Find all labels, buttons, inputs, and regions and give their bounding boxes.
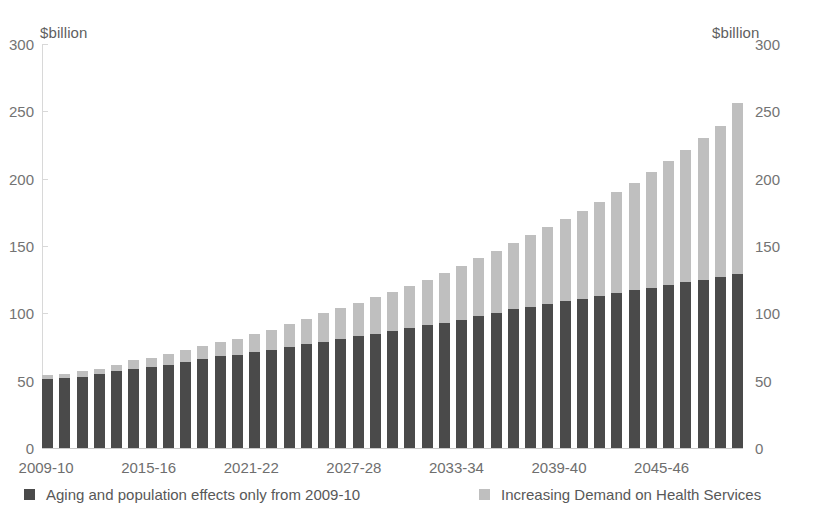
- x-axis-tick-label: 2021-22: [224, 460, 279, 475]
- bar-segment-aging: [680, 282, 691, 448]
- bar: [249, 334, 260, 448]
- bar: [215, 342, 226, 448]
- bar: [560, 219, 571, 448]
- bar-segment-aging: [301, 344, 312, 448]
- bar-segment-aging: [284, 347, 295, 448]
- bar: [680, 150, 691, 448]
- bar-segment-demand: [611, 192, 622, 293]
- y-axis-right-tick-label: 200: [755, 172, 795, 187]
- bar: [439, 273, 450, 448]
- y-axis-left-tick-label: 300: [0, 37, 34, 52]
- bar-segment-aging: [111, 371, 122, 448]
- bar-segment-aging: [249, 352, 260, 448]
- bar-segment-aging: [266, 350, 277, 448]
- bar-segment-aging: [163, 365, 174, 448]
- bar: [77, 371, 88, 448]
- bar-segment-demand: [629, 183, 640, 291]
- chart-legend: Aging and population effects only from 2…: [0, 486, 823, 508]
- x-axis-tick-label: 2039-40: [531, 460, 586, 475]
- bar-segment-demand: [663, 161, 674, 285]
- y-axis-right-tick-label: 100: [755, 306, 795, 321]
- bar: [94, 369, 105, 448]
- bar-segment-demand: [301, 319, 312, 345]
- bar: [284, 324, 295, 448]
- bar: [387, 292, 398, 448]
- bar: [542, 227, 553, 448]
- bar: [301, 319, 312, 448]
- bar-segment-demand: [249, 334, 260, 353]
- bar: [422, 280, 433, 448]
- bar-segment-aging: [146, 367, 157, 448]
- bar-segment-aging: [577, 299, 588, 448]
- bar-segment-demand: [146, 358, 157, 367]
- bar-segment-demand: [197, 346, 208, 359]
- bar-series-container: [42, 44, 743, 448]
- bar: [594, 202, 605, 448]
- bar: [715, 126, 726, 448]
- y-axis-right-tick-label: 50: [755, 374, 795, 389]
- bar-segment-aging: [542, 304, 553, 448]
- bar: [335, 308, 346, 448]
- bar-segment-aging: [335, 339, 346, 448]
- bar: [663, 161, 674, 448]
- bar-segment-aging: [663, 285, 674, 448]
- bar: [473, 258, 484, 448]
- bar: [611, 192, 622, 448]
- bar-segment-demand: [577, 211, 588, 299]
- y-axis-right-tick-label: 150: [755, 239, 795, 254]
- y-axis-left-tick-label: 150: [0, 239, 34, 254]
- bar-segment-aging: [525, 307, 536, 448]
- y-axis-right-tick-label: 0: [755, 441, 795, 456]
- bar-segment-aging: [353, 336, 364, 448]
- bar-segment-aging: [318, 342, 329, 448]
- y-axis-left-tick-label: 100: [0, 306, 34, 321]
- bar-segment-demand: [698, 138, 709, 279]
- bar-segment-demand: [473, 258, 484, 316]
- bar-segment-aging: [422, 325, 433, 448]
- bar-segment-demand: [422, 280, 433, 326]
- bar-segment-demand: [370, 297, 381, 333]
- bar: [577, 211, 588, 448]
- legend-label-demand: Increasing Demand on Health Services: [501, 486, 761, 503]
- bar-segment-aging: [404, 328, 415, 448]
- bar-segment-demand: [732, 103, 743, 274]
- bar: [646, 172, 657, 448]
- bar-segment-aging: [611, 293, 622, 448]
- bar-segment-aging: [232, 355, 243, 448]
- bar: [525, 235, 536, 448]
- stacked-bar-chart: $billion $billion 050100150200250300 050…: [0, 0, 823, 513]
- bar: [491, 251, 502, 448]
- bar-segment-aging: [94, 374, 105, 448]
- bar: [629, 183, 640, 448]
- bar-segment-demand: [111, 365, 122, 372]
- bar-segment-aging: [456, 320, 467, 448]
- bar-segment-demand: [387, 292, 398, 331]
- bar-segment-demand: [232, 339, 243, 355]
- bar-segment-demand: [353, 303, 364, 337]
- x-axis-tick-label: 2045-46: [634, 460, 689, 475]
- x-axis-tick-label: 2015-16: [121, 460, 176, 475]
- x-axis-tick-label: 2027-28: [326, 460, 381, 475]
- bar-segment-demand: [542, 227, 553, 304]
- bar: [42, 375, 53, 448]
- bar-segment-aging: [387, 331, 398, 448]
- bar-segment-demand: [266, 330, 277, 350]
- bar-segment-aging: [59, 378, 70, 448]
- bar-segment-aging: [42, 379, 53, 448]
- bar: [163, 354, 174, 448]
- bar-segment-demand: [508, 243, 519, 309]
- legend-item-demand: Increasing Demand on Health Services: [479, 486, 761, 503]
- legend-label-aging: Aging and population effects only from 2…: [46, 486, 360, 503]
- bar-segment-aging: [473, 316, 484, 448]
- legend-item-aging: Aging and population effects only from 2…: [24, 486, 360, 503]
- bar: [318, 313, 329, 448]
- bar-segment-aging: [370, 334, 381, 448]
- bar: [732, 103, 743, 448]
- y-axis-left-tick-label: 200: [0, 172, 34, 187]
- bar-segment-demand: [646, 172, 657, 288]
- bar-segment-aging: [439, 323, 450, 448]
- bar-segment-demand: [525, 235, 536, 306]
- bar: [232, 339, 243, 448]
- bar-segment-aging: [629, 290, 640, 448]
- left-axis-unit-label: $billion: [40, 24, 88, 41]
